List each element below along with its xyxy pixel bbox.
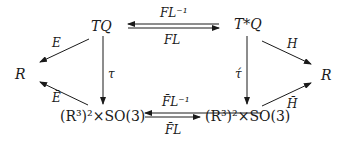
edge-label-h-bar: H̄ xyxy=(287,98,297,110)
edge-label-fl: FL xyxy=(164,34,180,46)
edge-label-tau: τ xyxy=(108,68,115,80)
edge-label-fl-bar: F̄L xyxy=(165,124,181,136)
node-r-right: R xyxy=(321,68,332,82)
edge-label-fl-bar-inverse: F̄L⁻¹ xyxy=(162,96,189,108)
commutative-diagram: TQ T*Q R R (R³)²×SO(3) (R³)²×SO(3) FL⁻¹ … xyxy=(0,0,349,146)
node-tq: TQ xyxy=(91,19,112,33)
edge-label-tau-acute: τ́ xyxy=(235,68,242,80)
node-r-left: R xyxy=(15,67,26,81)
node-bottom-right: (R³)²×SO(3) xyxy=(205,109,290,123)
edge-label-h: H xyxy=(287,38,297,50)
edge-label-e-bar: Ē xyxy=(52,92,61,104)
node-bottom-left: (R³)²×SO(3) xyxy=(60,109,145,123)
edge-label-fl-inverse: FL⁻¹ xyxy=(160,7,187,19)
node-tstarq: T*Q xyxy=(234,17,262,31)
edge-label-e: E xyxy=(52,37,61,49)
